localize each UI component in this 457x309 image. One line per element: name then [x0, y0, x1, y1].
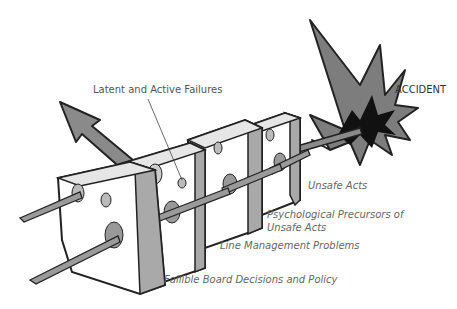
- label-fallible-board: Fallible Board Decisions and Policy: [164, 274, 338, 285]
- label-latent-active-failures: Latent and Active Failures: [93, 84, 222, 95]
- cheese-slice-fallible-board: [58, 162, 165, 294]
- label-unsafe-acts: Unsafe Acts: [308, 180, 367, 191]
- swiss-cheese-diagram: [0, 0, 457, 309]
- label-line-management: Line Management Problems: [220, 240, 360, 251]
- label-accident: ACCIDENT: [395, 84, 446, 95]
- label-psychological-precursors-line2: Unsafe Acts: [267, 222, 326, 233]
- label-psychological-precursors-line1: Psychological Precursors of: [267, 209, 403, 220]
